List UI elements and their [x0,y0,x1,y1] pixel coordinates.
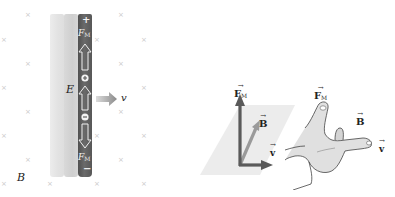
hand-v-label: →v [379,139,385,154]
rod-bottom-sign: − [83,163,91,174]
vector-b-label: →B [259,114,267,129]
hand-force-label: →FM [314,86,327,103]
vector-force-label: →FM [234,84,247,101]
field-cross-mark: × [94,133,100,140]
field-cross-mark: × [25,157,31,164]
field-cross-mark: × [94,37,100,44]
velocity-label: v [121,92,127,103]
field-cross-mark: × [47,181,53,188]
field-cross-mark: × [118,61,124,68]
magnetic-field-label: B [17,171,25,184]
field-cross-mark: × [141,37,147,44]
field-cross-mark: × [141,133,147,140]
field-cross-mark: × [118,157,124,164]
field-cross-mark: × [94,181,100,188]
lower-force-label: FM [78,152,90,162]
electric-field-arrow-icon [79,86,91,110]
rod-arrows [78,40,92,170]
field-cross-mark: × [25,109,31,116]
field-cross-mark: × [141,85,147,92]
velocity-arrow-icon [96,92,118,106]
upper-force-arrow-icon [79,44,91,70]
field-cross-mark: × [25,61,31,68]
rod-top-sign: + [82,14,90,25]
hand-b-label: →B [356,112,364,127]
field-cross-mark: × [1,181,7,188]
vector-diagram [200,80,295,180]
field-cross-mark: × [25,12,31,19]
field-cross-mark: × [118,109,124,116]
field-cross-mark: × [1,85,7,92]
electric-field-label: E [66,83,74,96]
field-cross-mark: × [1,133,7,140]
rod-trail-far [50,14,64,177]
lower-force-arrow-icon [79,124,91,148]
field-cross-mark: × [141,181,147,188]
vector-v-label: →v [270,143,276,158]
upper-force-label: FM [78,28,90,38]
field-cross-mark: × [118,12,124,19]
field-cross-mark: × [1,37,7,44]
